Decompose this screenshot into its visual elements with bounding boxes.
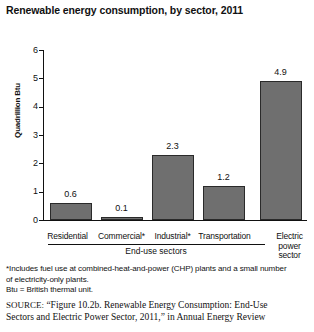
y-tick-1: 1 xyxy=(16,187,38,196)
y-tick-2: 2 xyxy=(16,159,38,168)
chart-source: SOURCE: “Figure 10.2b. Renewable Energy … xyxy=(6,300,310,323)
y-tick-5: 5 xyxy=(16,74,38,83)
bar-value-residential: 0.6 xyxy=(64,190,77,199)
source-line-2: Sectors and Electric Power Sector, 2011,… xyxy=(6,312,310,324)
end-use-sectors-rule xyxy=(48,244,265,245)
source-label: SOURCE: xyxy=(6,300,44,310)
x-axis-line xyxy=(43,220,307,221)
bar-slot-residential: 0.6 xyxy=(50,50,92,220)
bar-residential[interactable] xyxy=(50,203,92,220)
footnote-line-2: of electricity-only plants. xyxy=(6,275,308,286)
bar-slot-transportation: 1.2 xyxy=(203,50,245,220)
chart-figure: Renewable energy consumption, by sector,… xyxy=(0,0,313,332)
bar-electric-power[interactable] xyxy=(260,81,302,220)
footnote-line-3: Btu = British thermal unit. xyxy=(6,285,308,296)
source-text-1: “Figure 10.2b. Renewable Energy Consumpt… xyxy=(46,300,267,310)
bar-value-electric-power: 4.9 xyxy=(274,68,287,77)
y-axis-ticks: 6 5 4 3 2 1 0 xyxy=(16,50,38,220)
chart-title: Renewable energy consumption, by sector,… xyxy=(6,4,306,16)
category-label-electric-power: Electric power sector xyxy=(253,232,314,261)
bar-industrial[interactable] xyxy=(152,155,194,220)
bar-value-commercial: 0.1 xyxy=(115,204,128,213)
bar-series: 0.6 0.1 2.3 1.2 4.9 xyxy=(44,50,307,220)
y-tick-4: 4 xyxy=(16,102,38,111)
chart-footnotes: *Includes fuel use at combined-heat-and-… xyxy=(6,264,308,296)
y-tick-0: 0 xyxy=(16,216,38,225)
bar-commercial[interactable] xyxy=(101,217,143,220)
category-label-electric-line3: sector xyxy=(253,251,314,261)
bar-value-industrial: 2.3 xyxy=(166,142,179,151)
bar-value-transportation: 1.2 xyxy=(217,173,230,182)
y-tick-3: 3 xyxy=(16,131,38,140)
bar-slot-industrial: 2.3 xyxy=(152,50,194,220)
plot-area: Quadrillion Btu 6 5 4 3 2 1 0 0.6 0.1 xyxy=(0,44,313,230)
source-line-1: SOURCE: “Figure 10.2b. Renewable Energy … xyxy=(6,300,310,312)
footnote-line-1: *Includes fuel use at combined-heat-and-… xyxy=(6,264,308,275)
x-axis-categories: Residential Commercial* Industrial* Tran… xyxy=(44,232,307,268)
bar-slot-electric-power: 4.9 xyxy=(260,50,302,220)
bar-transportation[interactable] xyxy=(203,186,245,220)
bar-slot-commercial: 0.1 xyxy=(101,50,143,220)
end-use-sectors-label: End-use sectors xyxy=(48,246,265,256)
y-tick-6: 6 xyxy=(16,46,38,55)
